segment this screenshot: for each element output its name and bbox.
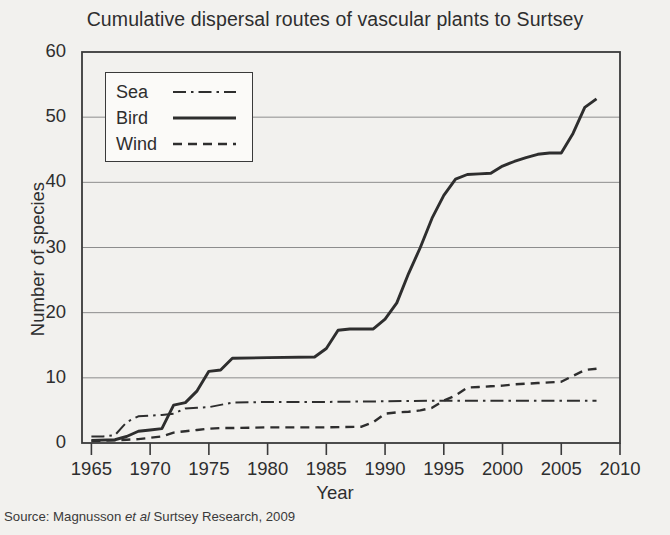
y-axis-tick-label: 0 [24,431,66,453]
y-axis-tick-label: 50 [24,105,66,127]
chart-page: Cumulative dispersal routes of vascular … [0,0,670,535]
x-axis-ticks [91,443,620,455]
x-axis-tick-label: 2010 [585,458,655,480]
legend-swatch-solid [172,111,238,125]
series-line-wind [91,369,596,441]
source-prefix: Source: Magnusson [4,509,125,524]
chart-plot-area [0,0,670,535]
source-italic: et al [125,509,150,524]
source-suffix: Surtsey Research, 2009 [150,509,295,524]
chart-legend: SeaBirdWind [105,72,253,162]
legend-label: Wind [116,134,172,155]
y-axis-tick-label: 60 [24,40,66,62]
legend-label: Bird [116,108,172,129]
legend-item-bird: Bird [116,105,248,131]
y-axis-label: Number of species [27,129,49,389]
x-axis-label: Year [0,482,670,504]
legend-swatch-dash-dot [172,85,238,99]
legend-label: Sea [116,82,172,103]
legend-item-wind: Wind [116,131,248,157]
source-note: Source: Magnusson et al Surtsey Research… [4,509,295,524]
legend-swatch-dashed [172,137,238,151]
legend-item-sea: Sea [116,79,248,105]
